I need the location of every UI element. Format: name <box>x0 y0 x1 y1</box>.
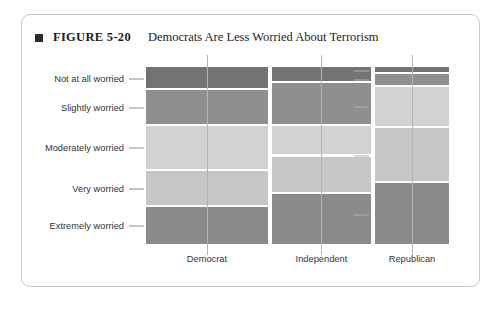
chart-plot: Not at all worriedSlightly worriedModera… <box>22 15 481 288</box>
y-axis-label: Very worried <box>72 184 124 194</box>
y-axis-tick <box>129 108 144 109</box>
y-axis-tick-right <box>354 107 369 108</box>
y-axis-label: Not at all worried <box>54 74 124 84</box>
y-axis-tick-right <box>354 214 369 215</box>
y-axis-tick-right <box>354 155 369 156</box>
y-axis-label: Slightly worried <box>61 103 124 113</box>
y-axis-tick-right <box>354 80 369 81</box>
y-axis-label: Extremely worried <box>50 221 124 231</box>
figure-card: FIGURE 5-20 Democrats Are Less Worried A… <box>21 14 480 287</box>
x-axis-gridline <box>207 55 208 255</box>
y-axis-tick <box>129 148 144 149</box>
y-axis: Not at all worriedSlightly worriedModera… <box>22 67 146 246</box>
y-axis-tick <box>129 226 144 227</box>
plot-area <box>146 67 453 246</box>
x-axis-label-democrat: Democrat <box>187 254 227 264</box>
y-axis-tick-right <box>354 70 369 71</box>
x-axis-label-republican: Republican <box>389 254 436 264</box>
y-axis-tick <box>129 78 144 79</box>
x-axis-label-independent: Independent <box>296 254 348 264</box>
x-axis-gridline <box>321 55 322 255</box>
y-axis-tick <box>129 188 144 189</box>
y-axis-label: Moderately worried <box>45 143 124 153</box>
x-axis-gridline <box>412 55 413 255</box>
